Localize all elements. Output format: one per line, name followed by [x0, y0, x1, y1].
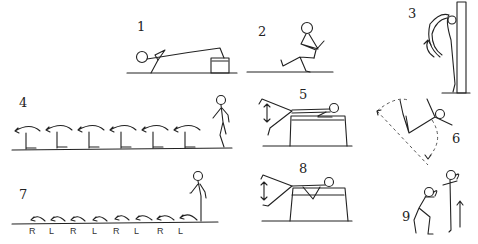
figure-7-drawing [12, 172, 218, 225]
figure-label-9: 9 [402, 210, 410, 223]
figure-label-6: 6 [452, 132, 460, 145]
figure-label-8: 8 [299, 162, 307, 175]
step-label: R [157, 227, 164, 236]
figure-1-drawing [127, 48, 237, 73]
diagram-drawing [0, 0, 478, 244]
figure-label-3: 3 [408, 7, 416, 20]
step-label: R [113, 227, 120, 236]
step-label: L [134, 227, 139, 236]
figure-label-2: 2 [258, 25, 266, 38]
exercise-diagram: 1 2 3 4 5 6 7 8 9 R L R L R L R L [0, 0, 478, 244]
figure-8-drawing [261, 175, 352, 221]
step-label: R [29, 227, 36, 236]
step-label: L [49, 227, 54, 236]
step-label: L [92, 227, 97, 236]
figure-9-drawing [414, 171, 463, 235]
figure-4-drawing [12, 96, 232, 151]
figure-label-5: 5 [299, 88, 307, 101]
figure-label-4: 4 [19, 96, 27, 109]
figure-6-drawing [377, 99, 452, 165]
step-label: L [178, 227, 183, 236]
figure-3-drawing [424, 2, 470, 93]
figure-label-1: 1 [137, 20, 145, 33]
step-label: R [70, 227, 77, 236]
figure-label-7: 7 [19, 188, 27, 201]
figure-5-drawing [259, 99, 352, 146]
